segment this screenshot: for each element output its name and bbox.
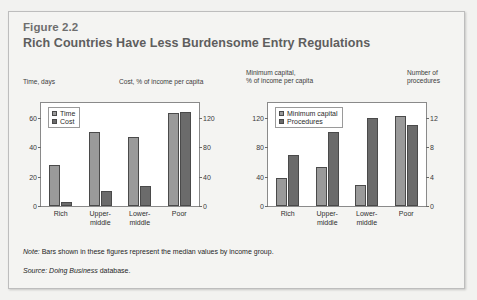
x-axis-category-label: Rich xyxy=(41,210,81,219)
legend-item: Procedures xyxy=(279,118,338,125)
bar-cost xyxy=(101,191,112,206)
y-axis-left-tick: 120 xyxy=(252,114,264,121)
chart-right: 0408012004812 Minimum capitalProcedures … xyxy=(267,102,427,207)
source-publication: Doing Business xyxy=(47,267,98,274)
y-axis-left-tick: 0 xyxy=(260,203,264,210)
bar-time xyxy=(168,113,179,206)
y-axis-left-tick: 40 xyxy=(29,144,37,151)
y-axis-right-tick: 80 xyxy=(203,144,211,151)
legend-swatch-icon xyxy=(52,119,57,124)
chart-left: 020406004080120 TimeCost RichUpper- midd… xyxy=(40,102,200,207)
y-axis-right-tick: 0 xyxy=(203,203,207,210)
bar-minimum-capital xyxy=(355,185,366,206)
x-axis-category-label: Poor xyxy=(160,210,200,219)
legend-left: TimeCost xyxy=(48,107,80,128)
legend-label: Time xyxy=(60,110,75,117)
y-axis-right-tick: 8 xyxy=(430,144,434,151)
figure-panel: Figure 2.2 Rich Countries Have Less Burd… xyxy=(8,11,465,289)
bar-group xyxy=(160,103,200,206)
y-axis-left-tickmark xyxy=(265,206,268,207)
bar-procedures xyxy=(367,118,378,206)
bar-minimum-capital xyxy=(395,116,406,206)
legend-label: Cost xyxy=(60,118,74,125)
figure-number: Figure 2.2 xyxy=(23,21,78,33)
y-axis-left-tickmark xyxy=(38,206,41,207)
legend-swatch-icon xyxy=(279,119,284,124)
caption-minimum-capital: Minimum capital, % of income per capita xyxy=(246,69,313,86)
source-body: database. xyxy=(98,267,131,274)
y-axis-right-tick: 120 xyxy=(203,114,215,121)
bar-group xyxy=(387,103,427,206)
legend-right: Minimum capitalProcedures xyxy=(275,107,343,128)
y-axis-left-tick: 60 xyxy=(29,114,37,121)
caption-time: Time, days xyxy=(23,78,55,86)
y-axis-right-tick: 0 xyxy=(430,203,434,210)
x-axis-category-label: Lower- middle xyxy=(120,210,160,227)
y-axis-left-tick: 20 xyxy=(29,173,37,180)
caption-cost: Cost, % of income per capita xyxy=(119,78,203,86)
bar-time xyxy=(49,165,60,206)
y-axis-left-tick: 80 xyxy=(256,144,264,151)
x-axis-category-label: Upper- middle xyxy=(81,210,121,227)
y-axis-right-tick: 40 xyxy=(203,173,211,180)
legend-item: Time xyxy=(52,110,75,117)
legend-swatch-icon xyxy=(52,111,57,116)
caption-procedures: Number of procedures xyxy=(407,69,440,86)
x-axis-category-label: Rich xyxy=(268,210,308,219)
y-axis-left-tick: 40 xyxy=(256,173,264,180)
bar-group xyxy=(347,103,387,206)
bar-group xyxy=(120,103,160,206)
y-axis-left-tick: 0 xyxy=(33,203,37,210)
y-axis-right-tickmark xyxy=(426,206,429,207)
bar-procedures xyxy=(407,125,418,206)
bar-cost xyxy=(61,202,72,206)
y-axis-right-tickmark xyxy=(199,118,202,119)
note-body: Bars shown in these figures represent th… xyxy=(40,248,274,255)
y-axis-right-tickmark xyxy=(199,206,202,207)
y-axis-right-tick: 12 xyxy=(430,114,438,121)
y-axis-right-tickmark xyxy=(199,147,202,148)
note-text: Note: Bars shown in these figures repres… xyxy=(23,248,274,255)
legend-label: Minimum capital xyxy=(287,110,338,117)
note-label: Note: xyxy=(23,248,40,255)
y-axis-right-tickmark xyxy=(426,147,429,148)
figure-title: Rich Countries Have Less Burdensome Entr… xyxy=(23,36,370,50)
y-axis-right-tickmark xyxy=(426,118,429,119)
legend-item: Minimum capital xyxy=(279,110,338,117)
legend-item: Cost xyxy=(52,118,75,125)
source-label: Source: xyxy=(23,267,47,274)
x-axis-category-label: Poor xyxy=(387,210,427,219)
bar-group xyxy=(81,103,121,206)
y-axis-right-tickmark xyxy=(426,177,429,178)
y-axis-right-tickmark xyxy=(199,177,202,178)
legend-label: Procedures xyxy=(287,118,323,125)
bar-minimum-capital xyxy=(276,178,287,206)
bar-time xyxy=(89,132,100,206)
legend-swatch-icon xyxy=(279,111,284,116)
bar-minimum-capital xyxy=(316,167,327,206)
bar-time xyxy=(128,137,139,206)
bar-cost xyxy=(180,112,191,206)
x-axis-category-label: Lower- middle xyxy=(347,210,387,227)
source-text: Source: Doing Business database. xyxy=(23,267,130,274)
x-axis-category-label: Upper- middle xyxy=(308,210,348,227)
bar-procedures xyxy=(288,155,299,207)
y-axis-right-tick: 4 xyxy=(430,173,434,180)
bar-cost xyxy=(140,186,151,206)
bar-procedures xyxy=(328,132,339,206)
